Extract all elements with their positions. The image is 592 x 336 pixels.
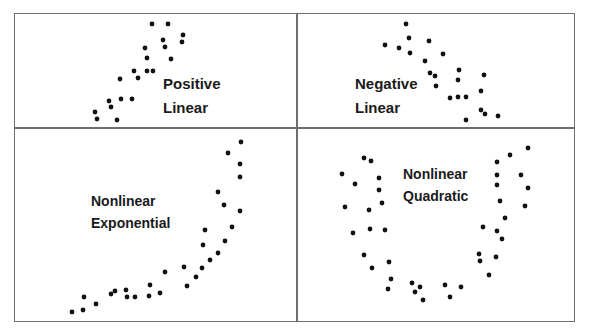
data-point — [503, 216, 508, 221]
data-point — [494, 255, 499, 260]
scatter-dots — [0, 0, 592, 336]
data-point — [201, 243, 206, 248]
data-point — [362, 156, 367, 161]
data-point — [457, 68, 462, 73]
data-point — [441, 52, 446, 57]
data-point — [448, 96, 453, 101]
negative-linear-label: Negative Linear — [355, 72, 418, 120]
data-point — [166, 22, 171, 27]
data-point — [487, 273, 492, 278]
data-point — [423, 59, 428, 64]
data-point — [216, 251, 221, 256]
data-point — [456, 78, 461, 83]
data-point — [464, 95, 469, 100]
data-point — [143, 46, 148, 51]
label-line-1: Positive — [163, 72, 221, 96]
data-point — [408, 51, 413, 56]
data-point — [239, 140, 244, 145]
data-point — [377, 188, 382, 193]
data-point — [118, 77, 123, 82]
data-point — [194, 275, 199, 280]
data-point — [124, 288, 129, 293]
scatter-patterns-figure: Positive Linear Negative Linear Nonlinea… — [0, 0, 592, 336]
data-point — [500, 237, 505, 242]
data-point — [230, 225, 235, 230]
data-point — [185, 284, 190, 289]
data-point — [238, 209, 243, 214]
data-point — [478, 259, 483, 264]
data-point — [158, 291, 163, 296]
label-line-1: Negative — [355, 72, 418, 96]
data-point — [495, 229, 500, 234]
data-point — [481, 225, 486, 230]
data-point — [368, 227, 373, 232]
data-point — [495, 173, 500, 178]
positive-linear-label: Positive Linear — [163, 72, 221, 120]
data-point — [181, 33, 186, 38]
data-point — [428, 71, 433, 76]
data-point — [479, 89, 484, 94]
label-line-2: Linear — [355, 96, 418, 120]
data-point — [367, 208, 372, 213]
data-point — [147, 294, 152, 299]
data-point — [479, 108, 484, 113]
label-line-2: Exponential — [91, 212, 170, 234]
data-point — [380, 201, 385, 206]
data-point — [351, 231, 356, 236]
data-point — [421, 298, 426, 303]
data-point — [136, 76, 141, 81]
data-point — [407, 36, 412, 41]
data-point — [93, 110, 98, 115]
data-point — [369, 159, 374, 164]
data-point — [464, 118, 469, 123]
data-point — [340, 172, 345, 177]
data-point — [456, 95, 461, 100]
data-point — [109, 105, 114, 110]
data-point — [477, 252, 482, 257]
data-point — [496, 114, 501, 119]
data-point — [238, 175, 243, 180]
label-line-1: Nonlinear — [403, 163, 468, 185]
data-point — [109, 292, 114, 297]
data-point — [180, 40, 185, 45]
data-point — [81, 308, 86, 313]
data-point — [523, 204, 528, 209]
data-point — [427, 39, 432, 44]
data-point — [161, 38, 166, 43]
data-point — [370, 266, 375, 271]
data-point — [163, 270, 168, 275]
label-line-2: Linear — [163, 96, 221, 120]
data-point — [70, 310, 75, 315]
data-point — [482, 73, 487, 78]
data-point — [483, 112, 488, 117]
data-point — [145, 56, 150, 61]
data-point — [519, 173, 524, 178]
data-point — [377, 176, 382, 181]
data-point — [362, 253, 367, 258]
data-point — [418, 285, 423, 290]
data-point — [163, 45, 168, 50]
data-point — [95, 117, 100, 122]
data-point — [448, 295, 453, 300]
data-point — [386, 287, 391, 292]
data-point — [404, 22, 409, 27]
data-point — [410, 281, 415, 286]
data-point — [208, 258, 213, 263]
data-point — [133, 295, 138, 300]
nonlinear-quadratic-label: Nonlinear Quadratic — [403, 163, 468, 207]
data-point — [113, 289, 118, 294]
data-point — [107, 99, 112, 104]
data-point — [94, 302, 99, 307]
data-point — [526, 186, 531, 191]
data-point — [216, 190, 221, 195]
data-point — [526, 146, 531, 151]
data-point — [182, 265, 187, 270]
data-point — [383, 43, 388, 48]
data-point — [151, 69, 156, 74]
data-point — [115, 118, 120, 123]
nonlinear-exponential-label: Nonlinear Exponential — [91, 190, 170, 234]
data-point — [343, 205, 348, 210]
data-point — [150, 22, 155, 27]
data-point — [130, 97, 135, 102]
label-line-1: Nonlinear — [91, 190, 170, 212]
